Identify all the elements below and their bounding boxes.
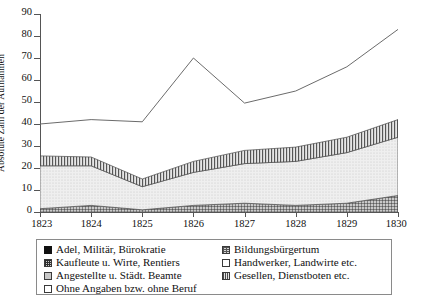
x-tick-mark: [193, 213, 194, 217]
y-tick-label: 70: [6, 50, 32, 61]
legend-item[interactable]: Bildungsbürgertum: [222, 243, 394, 256]
y-tick-label: 0: [6, 204, 32, 215]
chart-figure: Absolute Zahl der Aufnahmen 010203040506…: [0, 0, 428, 305]
y-tick-label: 20: [6, 160, 32, 171]
x-tick-label: 1827: [234, 218, 255, 230]
x-tick-label: 1825: [132, 218, 153, 230]
legend-label: Ohne Angaben bzw. ohne Beruf: [56, 282, 197, 295]
plot-area: [40, 14, 398, 212]
x-tick-label: 1824: [81, 218, 102, 230]
x-tick-label: 1830: [386, 218, 407, 230]
legend-swatch-vertical-lines: [222, 272, 230, 280]
y-tick-label: 60: [6, 72, 32, 83]
legend-item[interactable]: Ohne Angaben bzw. ohne Beruf: [44, 282, 220, 295]
legend-label: Bildungsbürgertum: [234, 243, 319, 256]
y-tick-label: 40: [6, 116, 32, 127]
legend-item[interactable]: Gesellen, Dienstboten etc.: [222, 269, 394, 282]
y-tick-label: 30: [6, 138, 32, 149]
legend-item[interactable]: Handwerker, Landwirte etc.: [222, 256, 394, 269]
legend-label: Kaufleute u. Wirte, Rentiers: [56, 256, 180, 269]
x-tick-label: 1829: [336, 218, 357, 230]
legend-label: Gesellen, Dienstboten etc.: [234, 269, 349, 282]
area-layers: [40, 120, 398, 212]
legend-swatch-cross-hatch-dark: [44, 259, 52, 267]
total-line: [40, 29, 398, 124]
legend-label: Handwerker, Landwirte etc.: [234, 256, 357, 269]
stacked-area-plot: [40, 14, 398, 212]
legend-item[interactable]: Kaufleute u. Wirte, Rentiers: [44, 256, 220, 269]
x-tick-mark: [347, 213, 348, 217]
legend-item[interactable]: Angestellte u. Städt. Beamte: [44, 269, 220, 282]
y-tick-label: 10: [6, 182, 32, 193]
x-tick-mark: [296, 213, 297, 217]
legend-swatch-gray-dots: [44, 272, 52, 280]
y-tick-label: 80: [6, 28, 32, 39]
legend-label: Angestellte u. Städt. Beamte: [56, 269, 182, 282]
legend-swatch-open-white: [44, 285, 52, 293]
x-tick-label: 1823: [31, 218, 52, 230]
x-tick-label: 1828: [285, 218, 306, 230]
x-tick-mark: [142, 213, 143, 217]
x-tick-label: 1826: [183, 218, 204, 230]
legend-swatch-solid-black: [44, 246, 52, 254]
legend-label: Adel, Militär, Bürokratie: [56, 243, 166, 256]
y-tick-label: 50: [6, 94, 32, 105]
legend: Adel, Militär, BürokratieKaufleute u. Wi…: [36, 239, 392, 295]
y-tick-label: 90: [6, 6, 32, 17]
x-tick-mark: [398, 213, 399, 217]
x-tick-mark: [91, 213, 92, 217]
x-tick-mark: [245, 213, 246, 217]
legend-column-left: Adel, Militär, BürokratieKaufleute u. Wi…: [44, 243, 220, 295]
legend-swatch-h-grid: [222, 246, 230, 254]
legend-column-right: BildungsbürgertumHandwerker, Landwirte e…: [222, 243, 394, 282]
x-tick-mark: [40, 213, 41, 217]
x-axis-line: [40, 212, 399, 213]
legend-item[interactable]: Adel, Militär, Bürokratie: [44, 243, 220, 256]
legend-swatch-open-white: [222, 259, 230, 267]
